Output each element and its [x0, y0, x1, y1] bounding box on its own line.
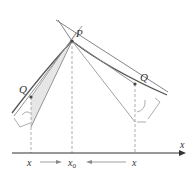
label-x-right: x: [131, 157, 137, 168]
label-q-right: Q: [140, 71, 148, 83]
label-p: P: [75, 27, 83, 39]
rotation-arc-left: [22, 112, 30, 115]
label-axis-x: x: [179, 139, 185, 150]
point-q-right: [133, 82, 136, 85]
tangent-line: [56, 20, 168, 92]
secant-line-left-2: [31, 41, 72, 127]
rotation-arrow-right: [148, 98, 160, 119]
arrow-left-to-x0-head: [56, 160, 62, 164]
label-x0: x0: [67, 157, 76, 170]
arrow-right-to-x0-head: [86, 160, 92, 164]
secant-line-right-1: [72, 41, 135, 122]
label-x0-sub: 0: [72, 162, 76, 170]
point-q-left: [29, 95, 32, 98]
label-q-left: Q: [19, 83, 27, 95]
rotation-arrow-left: [14, 118, 30, 127]
secant-line-right-2: [72, 41, 135, 84]
secant-tangent-diagram: P Q Q x x0 x x: [0, 0, 193, 175]
point-p: [70, 39, 73, 42]
x-axis-arrowhead: [179, 150, 186, 156]
tangent-line-left: [58, 20, 72, 41]
secant-line-left-3: [31, 33, 76, 97]
label-x-left: x: [26, 157, 32, 168]
rotation-arc-right: [137, 100, 145, 112]
